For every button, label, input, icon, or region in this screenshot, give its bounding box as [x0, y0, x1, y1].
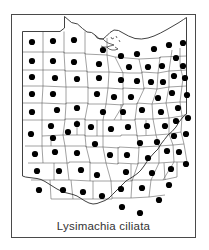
county-occurrence-dot [50, 58, 56, 64]
county-occurrence-dot [94, 91, 100, 97]
county-occurrence-dot [111, 94, 117, 100]
county-occurrence-dot [158, 109, 164, 115]
county-occurrence-dot [29, 74, 35, 80]
county-occurrence-dot [50, 135, 56, 141]
county-occurrence-dot [145, 64, 151, 70]
county-occurrence-dot [108, 126, 114, 132]
county-occurrence-dot [185, 115, 191, 121]
county-occurrence-dot [52, 149, 58, 155]
county-occurrence-dot [182, 75, 188, 81]
county-occurrence-dot [175, 105, 181, 111]
county-occurrence-dot [183, 161, 189, 167]
county-occurrence-dot [78, 167, 84, 173]
county-occurrence-dot [180, 63, 186, 69]
county-occurrence-dot [100, 47, 106, 53]
county-occurrence-dot [171, 73, 177, 79]
county-occurrence-dot [92, 141, 98, 147]
county-occurrence-dot [173, 118, 179, 124]
county-occurrence-dot [28, 131, 34, 137]
county-occurrence-dot [65, 129, 71, 135]
county-occurrence-dot [56, 168, 62, 174]
county-occurrence-dot [156, 197, 162, 203]
county-occurrence-dot [118, 53, 124, 59]
county-occurrence-dot [149, 170, 155, 176]
county-occurrence-dot [164, 148, 170, 154]
county-occurrence-dot [120, 109, 126, 115]
county-occurrence-dot [96, 75, 102, 81]
county-occurrence-dot [96, 61, 102, 67]
county-occurrence-dot [148, 79, 154, 85]
county-occurrence-dot [107, 152, 113, 158]
county-occurrence-dot [155, 95, 161, 101]
county-occurrence-dot [176, 149, 182, 155]
county-occurrence-dot [171, 133, 177, 139]
county-occurrence-dot [74, 121, 80, 127]
county-occurrence-dot [137, 140, 143, 146]
county-occurrence-dot [119, 204, 125, 210]
county-occurrence-dot [74, 76, 80, 82]
county-occurrence-dot [48, 123, 54, 129]
county-occurrence-dot [145, 155, 151, 161]
county-occurrence-dot [118, 186, 124, 192]
county-occurrence-dot [169, 90, 175, 96]
county-occurrence-dot [99, 193, 105, 199]
county-occurrence-dot [74, 150, 80, 156]
county-occurrence-dot [118, 77, 124, 83]
county-boundaries [23, 32, 188, 200]
county-occurrence-dot [60, 187, 66, 193]
county-occurrence-dot [128, 94, 134, 100]
county-occurrence-dot [29, 58, 35, 64]
county-occurrence-dot [180, 40, 186, 46]
species-caption: Lysimachia ciliata [11, 220, 196, 232]
county-occurrence-dot [134, 78, 140, 84]
county-occurrence-dot [74, 105, 80, 111]
county-occurrence-dot [160, 79, 166, 85]
county-occurrence-dot [159, 63, 165, 69]
county-occurrence-dot [36, 187, 42, 193]
county-occurrence-dot [183, 131, 189, 137]
county-occurrence-dot [162, 123, 168, 129]
occurrence-dot-layer [28, 37, 191, 216]
county-occurrence-dot [173, 55, 179, 61]
county-occurrence-dot [151, 46, 157, 52]
county-occurrence-dot [166, 42, 172, 48]
county-occurrence-dot [139, 107, 145, 113]
county-occurrence-dot [139, 185, 145, 191]
county-occurrence-dot [29, 91, 35, 97]
county-occurrence-dot [50, 38, 56, 44]
county-occurrence-dot [144, 123, 150, 129]
county-occurrence-dot [50, 91, 56, 97]
lake-erie-shoreline-detail [95, 35, 120, 50]
county-occurrence-dot [124, 152, 130, 158]
county-occurrence-dot [168, 166, 174, 172]
county-occurrence-dot [71, 37, 77, 43]
county-occurrence-dot [154, 139, 160, 145]
county-occurrence-dot [94, 172, 100, 178]
county-occurrence-dot [125, 124, 131, 130]
county-occurrence-dot [52, 75, 58, 81]
county-occurrence-dot [34, 168, 40, 174]
county-occurrence-dot [184, 92, 190, 98]
county-occurrence-dot [80, 189, 86, 195]
county-occurrence-dot [29, 39, 35, 45]
county-occurrence-dot [134, 51, 140, 57]
county-occurrence-dot [29, 109, 35, 115]
distribution-map-figure: Lysimachia ciliata [0, 0, 209, 250]
county-occurrence-dot [100, 109, 106, 115]
county-occurrence-dot [126, 64, 132, 70]
county-occurrence-dot [71, 59, 77, 65]
county-occurrence-dot [32, 151, 38, 157]
county-occurrence-dot [123, 169, 129, 175]
county-occurrence-dot [137, 210, 143, 216]
county-occurrence-dot [88, 124, 94, 130]
county-occurrence-dot [54, 107, 60, 113]
ohio-county-distribution-map [11, 14, 196, 238]
county-occurrence-dot [166, 182, 172, 188]
